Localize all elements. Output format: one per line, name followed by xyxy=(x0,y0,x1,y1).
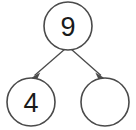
diagram-canvas: 9 4 xyxy=(0,0,136,130)
edge-root-to-left-child xyxy=(32,49,66,80)
edge-line-right xyxy=(71,49,101,76)
node-right-part[interactable] xyxy=(81,78,129,126)
node-root-label: 9 xyxy=(60,12,75,42)
node-right-circle[interactable] xyxy=(81,78,129,126)
edge-line-left xyxy=(35,49,66,76)
node-root-total[interactable]: 9 xyxy=(44,2,92,50)
node-left-label: 4 xyxy=(23,88,38,118)
edge-root-to-right-child xyxy=(71,49,104,80)
number-bond-diagram: 9 4 xyxy=(0,0,136,130)
node-left-part[interactable]: 4 xyxy=(7,78,55,126)
